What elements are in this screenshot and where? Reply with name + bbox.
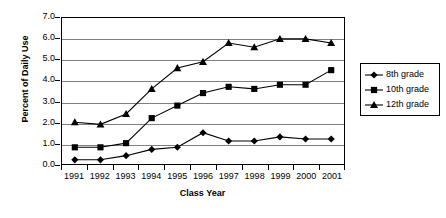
legend-label: 10th grade bbox=[386, 84, 429, 95]
data-point-marker bbox=[328, 67, 334, 73]
data-point-marker bbox=[370, 71, 377, 78]
chart-figure: Percent of Daily Use 0.01.02.03.04.05.06… bbox=[0, 0, 446, 218]
data-point-marker bbox=[97, 156, 104, 163]
y-tick-mark bbox=[55, 38, 60, 39]
y-tick-label: 1.0 bbox=[29, 139, 55, 148]
y-tick-mark bbox=[55, 102, 60, 103]
x-tick-label: 2001 bbox=[315, 171, 349, 181]
data-point-marker bbox=[200, 90, 206, 96]
data-point-marker bbox=[123, 152, 130, 159]
plot-area bbox=[61, 17, 345, 165]
x-tick-mark bbox=[293, 165, 294, 170]
chart-legend: 8th grade10th grade12th grade bbox=[360, 63, 440, 116]
data-point-marker bbox=[174, 103, 180, 109]
x-tick-mark bbox=[268, 165, 269, 170]
x-tick-mark bbox=[61, 165, 62, 170]
data-point-marker bbox=[149, 115, 155, 121]
data-point-marker bbox=[225, 39, 233, 46]
data-point-marker bbox=[371, 86, 377, 92]
y-tick-mark bbox=[55, 59, 60, 60]
data-point-marker bbox=[251, 138, 258, 145]
legend-marker-square-icon bbox=[364, 84, 384, 96]
series-8th-grade bbox=[71, 129, 335, 163]
legend-label: 12th grade bbox=[386, 99, 429, 110]
legend-marker-triangle-icon bbox=[364, 99, 384, 111]
series-12th-grade bbox=[71, 35, 335, 128]
legend-label: 8th grade bbox=[386, 69, 424, 80]
data-point-marker bbox=[148, 146, 155, 153]
data-point-marker bbox=[174, 144, 181, 151]
y-tick-label: 4.0 bbox=[29, 75, 55, 84]
x-tick-mark bbox=[190, 165, 191, 170]
data-point-marker bbox=[199, 129, 206, 136]
data-point-marker bbox=[71, 156, 78, 163]
data-point-marker bbox=[302, 82, 308, 88]
y-tick-mark bbox=[55, 80, 60, 81]
x-axis-ticks: 1991199219931994199519961997199819992000… bbox=[61, 165, 345, 187]
legend-item[interactable]: 8th grade bbox=[364, 67, 435, 82]
data-point-marker bbox=[251, 86, 257, 92]
y-tick-label: 0.0 bbox=[29, 160, 55, 169]
y-tick-mark bbox=[55, 144, 60, 145]
y-tick-label: 6.0 bbox=[29, 33, 55, 42]
legend-item[interactable]: 12th grade bbox=[364, 97, 435, 112]
series-layer bbox=[62, 18, 344, 164]
data-point-marker bbox=[225, 138, 232, 145]
data-point-marker bbox=[199, 58, 207, 65]
x-tick-mark bbox=[344, 165, 345, 170]
y-tick-label: 7.0 bbox=[29, 12, 55, 21]
data-point-marker bbox=[71, 118, 79, 125]
y-axis-ticks: 0.01.02.03.04.05.06.07.0 bbox=[26, 17, 55, 165]
x-tick-mark bbox=[216, 165, 217, 170]
y-tick-mark bbox=[55, 17, 60, 18]
data-point-marker bbox=[277, 82, 283, 88]
x-tick-mark bbox=[319, 165, 320, 170]
data-point-marker bbox=[276, 133, 283, 140]
data-point-marker bbox=[328, 135, 335, 142]
x-tick-mark bbox=[138, 165, 139, 170]
series-line bbox=[75, 133, 331, 160]
legend-marker-diamond-icon bbox=[364, 69, 384, 81]
series-line bbox=[75, 39, 331, 125]
data-point-marker bbox=[226, 84, 232, 90]
data-point-marker bbox=[302, 135, 309, 142]
y-tick-label: 5.0 bbox=[29, 54, 55, 63]
data-point-marker bbox=[97, 144, 103, 150]
x-tick-mark bbox=[242, 165, 243, 170]
x-tick-mark bbox=[164, 165, 165, 170]
x-tick-mark bbox=[87, 165, 88, 170]
y-tick-mark bbox=[55, 123, 60, 124]
data-point-marker bbox=[123, 140, 129, 146]
data-point-marker bbox=[72, 144, 78, 150]
x-tick-mark bbox=[113, 165, 114, 170]
y-tick-label: 2.0 bbox=[29, 118, 55, 127]
y-tick-mark bbox=[55, 165, 60, 166]
legend-item[interactable]: 10th grade bbox=[364, 82, 435, 97]
x-axis-title: Class Year bbox=[60, 188, 345, 198]
y-tick-label: 3.0 bbox=[29, 97, 55, 106]
